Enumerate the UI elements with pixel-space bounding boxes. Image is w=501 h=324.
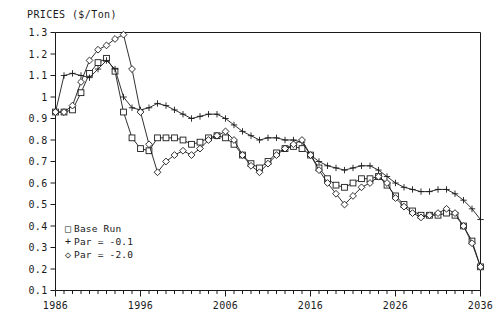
y-axis-tick-label: 0.1: [29, 285, 48, 296]
legend-item-label: Base Run: [74, 222, 121, 235]
y-axis-tick-label: 0.9: [29, 113, 48, 124]
y-axis-tick-label: 0.7: [29, 156, 48, 167]
y-axis-tick-label: 1.2: [29, 49, 48, 60]
y-axis-tick-label: 1.3: [29, 27, 48, 38]
chart-plot-area: 0.10.20.30.40.50.60.70.80.911.11.21.3198…: [0, 0, 501, 324]
y-axis-tick-label: 1.1: [29, 70, 48, 81]
x-axis-tick-label: 1986: [43, 300, 68, 311]
legend-marker-icon: □: [62, 222, 74, 235]
y-axis-tick-label: 0.2: [29, 264, 48, 275]
legend-marker-icon: +: [62, 235, 74, 248]
x-axis-tick-label: 2026: [383, 300, 408, 311]
y-axis-tick-label: 1: [41, 92, 47, 103]
x-axis-tick-label: 2036: [468, 300, 493, 311]
legend-item-2: +Par = -0.1: [62, 235, 133, 248]
y-axis-tick-label: 0.4: [29, 221, 48, 232]
legend-item-1: □Base Run: [62, 222, 133, 235]
legend-item-3: ◇Par = -2.0: [62, 248, 133, 261]
y-axis-tick-label: 0.6: [29, 178, 48, 189]
y-axis-tick-label: 0.8: [29, 135, 48, 146]
chart-root: PRICES ($/Ton) 0.10.20.30.40.50.60.70.80…: [0, 0, 501, 324]
legend-marker-icon: ◇: [62, 248, 74, 261]
legend-item-label: Par = -0.1: [74, 235, 133, 248]
y-axis-tick-label: 0.5: [29, 199, 48, 210]
x-axis-tick-label: 2006: [213, 300, 238, 311]
y-axis-tick-label: 0.3: [29, 242, 48, 253]
chart-legend: □Base Run+Par = -0.1◇Par = -2.0: [62, 222, 133, 261]
x-axis-tick-label: 2016: [298, 300, 323, 311]
legend-item-label: Par = -2.0: [74, 248, 133, 261]
x-axis-tick-label: 1996: [128, 300, 153, 311]
